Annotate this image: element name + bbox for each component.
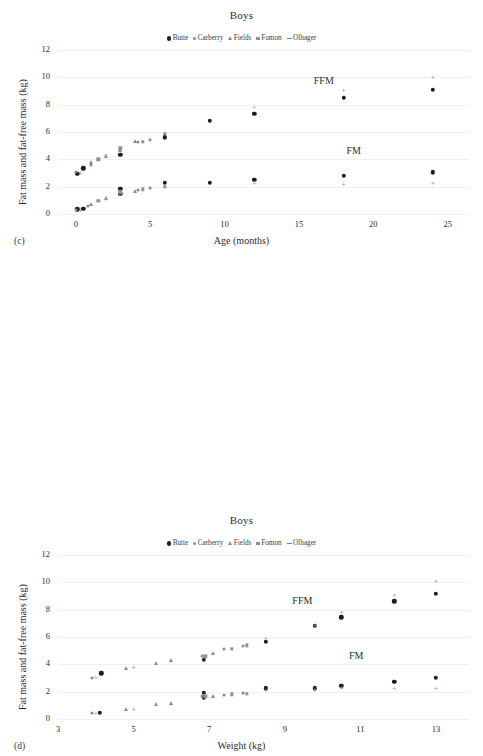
data-point-fomon bbox=[204, 654, 207, 657]
data-point-fields bbox=[154, 702, 158, 706]
y-axis-tick-label: 8 bbox=[28, 99, 50, 109]
data-point-fields bbox=[154, 661, 158, 665]
data-point-fields bbox=[89, 202, 93, 206]
data-point-marker-plus-icon: + bbox=[252, 103, 256, 110]
data-point-carberry bbox=[200, 694, 203, 697]
data-point-carberry bbox=[200, 655, 203, 658]
data-point-butte bbox=[392, 680, 396, 684]
data-point-fomon bbox=[230, 647, 233, 650]
y-axis-tick-label: 2 bbox=[28, 686, 50, 696]
data-point-fields bbox=[211, 651, 215, 655]
data-point-marker-plus-icon: + bbox=[163, 129, 167, 136]
data-point-butte bbox=[99, 671, 103, 675]
data-point-marker-plus-icon: + bbox=[78, 170, 82, 177]
legend-marker-small-circle-icon bbox=[193, 542, 196, 545]
legend-label: Fomon bbox=[261, 34, 281, 42]
data-point-butte bbox=[341, 96, 345, 100]
gridline-horizontal bbox=[58, 159, 470, 160]
data-point-butte bbox=[97, 711, 101, 715]
y-axis-tick-label: 4 bbox=[28, 153, 50, 163]
data-point-carberry bbox=[223, 694, 226, 697]
legend-label: Carberry bbox=[198, 34, 224, 42]
legend-label: Olhager bbox=[293, 539, 316, 547]
y-axis-tick-label: 12 bbox=[28, 44, 50, 54]
y-axis-tick-label: 6 bbox=[28, 126, 50, 136]
legend-item-fomon[interactable]: Fomon bbox=[256, 539, 281, 547]
data-point-carberry bbox=[242, 692, 245, 695]
panel-d: Boys ButteCarberryFieldsFomonOlhager Fat… bbox=[0, 514, 483, 756]
data-point-butte bbox=[339, 615, 343, 619]
data-point-marker-plus-icon: + bbox=[78, 206, 82, 213]
y-axis-tick-label: 12 bbox=[28, 549, 50, 559]
data-point-marker-plus-icon: + bbox=[94, 673, 98, 680]
legend-label: Fields bbox=[234, 539, 252, 547]
data-point-butte bbox=[341, 174, 345, 178]
x-axis-tick-label: 13 bbox=[424, 724, 448, 734]
y-axis-tick-label: 10 bbox=[28, 576, 50, 586]
data-point-fomon bbox=[204, 695, 207, 698]
gridline-horizontal bbox=[58, 50, 470, 51]
data-point-fields bbox=[169, 701, 173, 705]
legend-item-olhager[interactable]: Olhager bbox=[287, 539, 317, 547]
legend-item-carberry[interactable]: Carberry bbox=[193, 34, 223, 42]
panel-c-xlabel: Age (months) bbox=[0, 235, 483, 246]
legend-marker-square-icon bbox=[256, 37, 259, 40]
y-axis-tick-label: 8 bbox=[28, 604, 50, 614]
legend-label: Butte bbox=[173, 539, 189, 547]
data-point-marker-plus-icon: + bbox=[148, 135, 152, 142]
data-point-fields bbox=[89, 160, 93, 164]
data-point-fomon bbox=[119, 147, 122, 150]
data-point-carberry bbox=[242, 644, 245, 647]
data-point-marker-plus-icon: + bbox=[132, 706, 136, 713]
gridline-horizontal bbox=[58, 214, 470, 215]
data-point-fomon bbox=[96, 199, 99, 202]
legend-marker-dash-icon bbox=[287, 543, 292, 544]
legend-item-olhager[interactable]: Olhager bbox=[287, 34, 317, 42]
gridline-horizontal bbox=[58, 77, 470, 78]
legend-marker-filled-circle-icon bbox=[167, 36, 171, 40]
data-point-marker-plus-icon: + bbox=[252, 179, 256, 186]
data-point-marker-plus-icon: + bbox=[313, 685, 317, 692]
panel-d-letter: (d) bbox=[14, 741, 25, 751]
y-axis-tick-label: 10 bbox=[28, 71, 50, 81]
x-axis-tick-label: 20 bbox=[361, 219, 385, 229]
data-point-marker-plus-icon: + bbox=[264, 686, 268, 693]
data-point-fomon bbox=[141, 188, 144, 191]
y-axis-tick-label: 0 bbox=[28, 713, 50, 723]
data-point-carberry bbox=[74, 208, 77, 211]
data-point-marker-plus-icon: + bbox=[434, 684, 438, 691]
annotation-fm: FM bbox=[349, 650, 363, 661]
x-axis-tick-label: 25 bbox=[436, 219, 460, 229]
gridline-horizontal bbox=[58, 105, 470, 106]
data-point-marker-plus-icon: + bbox=[163, 184, 167, 191]
data-point-marker-plus-icon: + bbox=[339, 608, 343, 615]
panel-d-title: Boys bbox=[0, 514, 483, 526]
legend-item-carberry[interactable]: Carberry bbox=[193, 539, 223, 547]
annotation-fm: FM bbox=[347, 145, 361, 156]
legend-marker-square-icon bbox=[256, 542, 259, 545]
legend-item-butte[interactable]: Butte bbox=[167, 34, 188, 42]
x-axis-tick-label: 10 bbox=[213, 219, 237, 229]
legend-item-fields[interactable]: Fields bbox=[228, 34, 251, 42]
legend-label: Butte bbox=[173, 34, 189, 42]
data-point-marker-plus-icon: + bbox=[392, 591, 396, 598]
x-axis-tick-label: 9 bbox=[273, 724, 297, 734]
legend-label: Fields bbox=[234, 34, 252, 42]
data-point-marker-plus-icon: + bbox=[339, 685, 343, 692]
legend-item-butte[interactable]: Butte bbox=[167, 539, 188, 547]
x-axis-tick-label: 5 bbox=[122, 724, 146, 734]
legend-item-fields[interactable]: Fields bbox=[228, 539, 251, 547]
legend-marker-triangle-icon bbox=[228, 36, 232, 40]
data-point-marker-plus-icon: + bbox=[342, 180, 346, 187]
y-axis-tick-label: 6 bbox=[28, 631, 50, 641]
legend-label: Fomon bbox=[261, 539, 281, 547]
panel-d-plot-area: 02468101235791113FFMFM++++++++++++++ bbox=[58, 555, 470, 719]
legend-label: Olhager bbox=[293, 34, 316, 42]
legend-label: Carberry bbox=[198, 539, 224, 547]
data-point-marker-plus-icon: + bbox=[431, 179, 435, 186]
gridline-horizontal bbox=[58, 582, 470, 583]
x-axis-tick-label: 5 bbox=[138, 219, 162, 229]
data-point-marker-plus-icon: + bbox=[313, 622, 317, 629]
x-axis-tick-label: 3 bbox=[46, 724, 70, 734]
legend-item-fomon[interactable]: Fomon bbox=[256, 34, 281, 42]
